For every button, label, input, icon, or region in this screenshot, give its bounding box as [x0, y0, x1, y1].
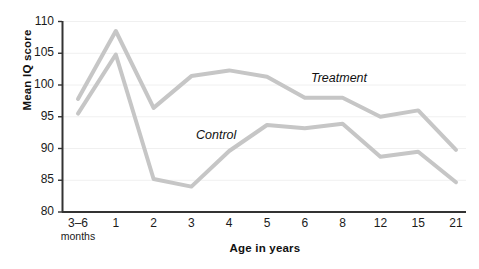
series-lines: [78, 31, 456, 187]
y-tick-label: 100: [22, 77, 54, 91]
y-tick-label: 95: [22, 109, 54, 123]
x-axis-title: Age in years: [165, 242, 365, 254]
series-label-treatment: Treatment: [311, 71, 367, 85]
series-line-treatment: [78, 31, 456, 150]
y-tick-label: 110: [22, 14, 54, 28]
series-label-control: Control: [196, 128, 236, 142]
series-line-control: [78, 55, 456, 187]
iq-line-chart: Mean IQ score 80859095100105110 3–6month…: [0, 0, 479, 269]
x-tick-label: 21: [426, 216, 479, 230]
y-tick-label: 105: [22, 45, 54, 59]
y-tick-label: 85: [22, 172, 54, 186]
y-tick-label: 90: [22, 141, 54, 155]
y-tick-marks: [58, 22, 62, 213]
